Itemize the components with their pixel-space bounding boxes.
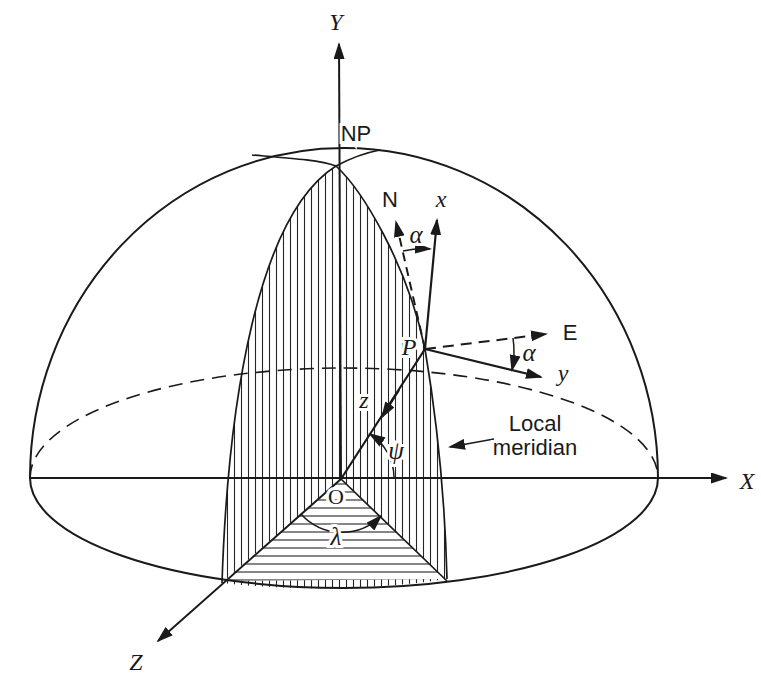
annotation-leader-arrow (450, 439, 494, 447)
alpha-label-top: α (409, 221, 423, 248)
y-axis-label: Y (329, 9, 345, 35)
local-x-ray (425, 220, 437, 349)
local-meridian-annotation-line1: Local (509, 411, 562, 436)
alpha-label-right: α (522, 339, 536, 366)
local-x-label: x (435, 186, 447, 212)
local-y-label: y (556, 360, 569, 386)
x-axis-label: X (739, 468, 756, 494)
lambda-label: λ (330, 523, 342, 550)
local-z-label: z (358, 387, 369, 413)
alpha-arc-top (403, 249, 430, 251)
psi-label: ψ (388, 437, 404, 464)
point-p-label: P (401, 334, 417, 360)
geodesy-diagram: Y NP N x α E α y P z ψ λ O X Z Local mer… (0, 0, 761, 690)
north-label: N (382, 187, 398, 212)
figure-canvas: Y NP N x α E α y P z ψ λ O X Z Local mer… (0, 0, 761, 690)
local-meridian-annotation-line2: meridian (493, 435, 577, 460)
alpha-arc-right (512, 338, 514, 370)
east-label: E (563, 320, 578, 345)
z-axis-label: Z (129, 649, 143, 675)
origin-label: O (328, 484, 344, 509)
local-meridian-annotation: Local meridian (493, 411, 577, 460)
np-label: NP (341, 121, 372, 146)
